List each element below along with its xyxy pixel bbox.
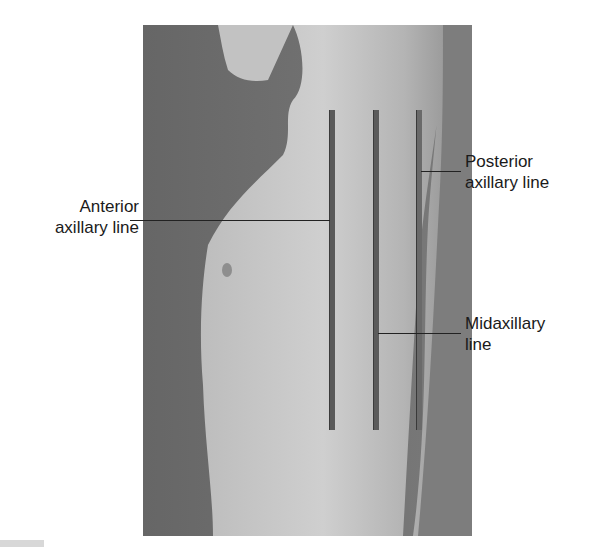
torso-photo: [143, 25, 472, 536]
midaxillary-label-line2: line: [465, 334, 545, 355]
anterior-leader-line: [130, 220, 330, 221]
torso-illustration: [143, 25, 472, 536]
anterior-axillary-label: Anterior axillary line: [20, 196, 139, 238]
anterior-label-line1: Anterior: [20, 196, 139, 217]
posterior-label-line2: axillary line: [465, 172, 549, 193]
anterior-axillary-line-marker: [329, 110, 335, 430]
watermark-strip: [0, 540, 44, 547]
midaxillary-label: Midaxillary line: [465, 313, 545, 355]
posterior-axillary-label: Posterior axillary line: [465, 151, 549, 193]
midaxillary-line-marker: [373, 110, 379, 430]
posterior-axillary-line-marker: [416, 110, 422, 430]
posterior-leader-line: [421, 171, 461, 172]
midaxillary-leader-line: [378, 333, 461, 334]
anterior-label-line2: axillary line: [20, 217, 139, 238]
posterior-label-line1: Posterior: [465, 151, 549, 172]
midaxillary-label-line1: Midaxillary: [465, 313, 545, 334]
